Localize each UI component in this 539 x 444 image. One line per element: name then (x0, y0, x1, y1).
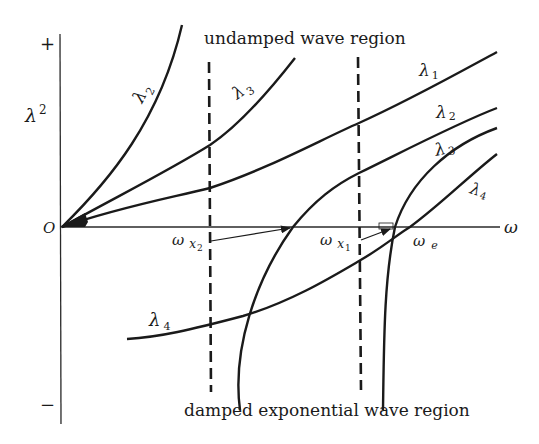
minus-sign: − (40, 394, 55, 415)
curve-lambda2-lower (238, 108, 497, 410)
label-lambda2-lower: λ2 (435, 102, 456, 123)
label-lambda3-lower: λ3 (432, 136, 457, 161)
arrow-omega-x1-to-crossing (361, 229, 390, 240)
label-lambda1: λ1 (418, 60, 439, 82)
label-lambda3-upper: λ3 (227, 76, 257, 107)
arrow-omega-x2-to-crossing (211, 228, 290, 241)
omega-e-crossing-marker (379, 223, 393, 229)
label-omega-x1: ωx1 (320, 231, 351, 253)
undamped-region-title: undamped wave region (204, 28, 406, 48)
x-axis-label: ω (504, 217, 518, 237)
curve-lambda2-steep (62, 25, 182, 227)
curve-lambda3-lower (383, 128, 497, 410)
dispersion-diagram: + − λ2 O ω undamped wave region damped e… (0, 0, 539, 444)
origin-label: O (43, 219, 55, 237)
y-axis-label: λ2 (24, 103, 47, 126)
y-axis (60, 34, 61, 424)
label-lambda4-left: λ4 (148, 309, 170, 333)
boundary-line-omega-x1 (358, 57, 361, 390)
curve-lambda3-upper (62, 58, 295, 227)
plus-sign: + (40, 33, 55, 54)
damped-region-title: damped exponential wave region (184, 400, 470, 420)
label-omega-x2: ωx2 (172, 231, 203, 253)
label-lambda4-right: λ4 (467, 178, 490, 202)
label-omega-e: ωe (413, 232, 438, 252)
